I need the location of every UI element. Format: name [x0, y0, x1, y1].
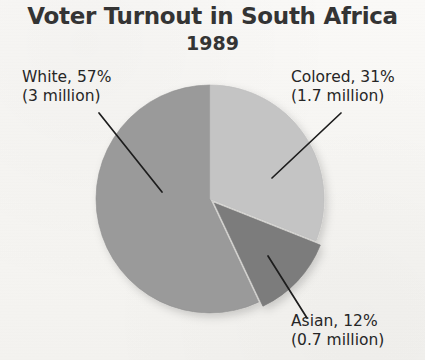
- slice-label-colored-line1: Colored, 31%: [291, 68, 395, 87]
- pie-plot-area: [0, 0, 425, 360]
- slice-label-asian: Asian, 12% (0.7 million): [291, 312, 384, 350]
- slice-label-white: White, 57% (3 million): [22, 68, 111, 106]
- slice-label-colored: Colored, 31% (1.7 million): [291, 68, 395, 106]
- slice-label-colored-line2: (1.7 million): [291, 87, 395, 106]
- pie-chart-figure: Voter Turnout in South Africa 1989: [0, 0, 425, 360]
- slice-label-asian-line1: Asian, 12%: [291, 312, 384, 331]
- slice-label-asian-line2: (0.7 million): [291, 331, 384, 350]
- slice-label-white-line2: (3 million): [22, 87, 111, 106]
- slice-label-white-line1: White, 57%: [22, 68, 111, 87]
- pie-svg: [0, 0, 425, 360]
- pie-slices-group: [96, 85, 324, 313]
